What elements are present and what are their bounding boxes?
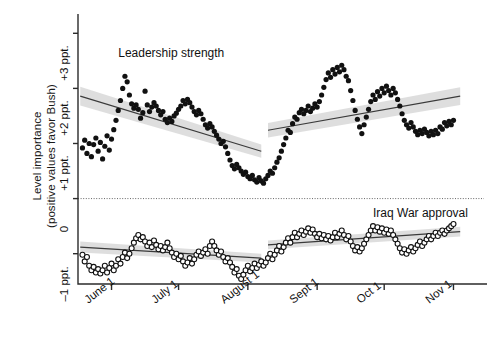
annotation-leadership-strength: Leadership strength — [118, 46, 224, 60]
y-tick-label-3: 0 — [58, 197, 70, 261]
chart-figure: Level importance (positive values favor … — [0, 0, 491, 341]
y-axis-title: Level importance (positive values favor … — [30, 36, 58, 276]
chart-plot-area — [0, 0, 491, 341]
annotation-iraq-war-approval: Iraq War approval — [373, 206, 468, 220]
y-axis-title-line1: Level importance — [31, 111, 43, 200]
y-tick-label-2: +1 ppt. — [58, 141, 70, 205]
y-tick-label-4: –1 ppt. — [58, 252, 70, 316]
y-axis-title-line2: (positive values favor Bush) — [45, 84, 57, 228]
